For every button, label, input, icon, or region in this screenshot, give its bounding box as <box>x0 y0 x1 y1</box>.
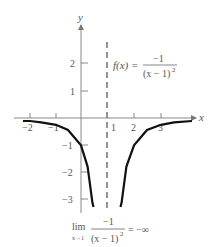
svg-text:−1: −1 <box>153 53 164 64</box>
function-graph: x y −2 −1 1 2 3 2 1 −1 −2 −3 f(x) = −1 (… <box>0 0 211 247</box>
svg-text:2: 2 <box>120 230 124 238</box>
svg-text:f(x) =: f(x) = <box>113 59 138 72</box>
y-tick-label: 2 <box>70 58 75 69</box>
x-tick-label: −2 <box>22 122 33 133</box>
function-label: f(x) = −1 (x − 1) 2 <box>113 53 177 80</box>
svg-text:lim: lim <box>72 221 86 232</box>
y-tick-label: −3 <box>62 194 73 205</box>
svg-text:(x − 1): (x − 1) <box>91 233 118 245</box>
svg-text:= −∞: = −∞ <box>128 224 149 235</box>
svg-text:(x − 1): (x − 1) <box>143 68 170 80</box>
y-tick-label: −2 <box>62 167 73 178</box>
x-tick-label: 1 <box>111 122 116 133</box>
x-axis-label: x <box>198 111 204 123</box>
y-tick-label: 1 <box>70 86 75 97</box>
y-axis-label: y <box>77 11 83 23</box>
curve-right-branch <box>121 121 193 207</box>
x-ticks <box>30 113 161 118</box>
svg-text:2: 2 <box>172 66 176 74</box>
curve-left-branch <box>23 121 94 207</box>
y-ticks <box>81 63 88 199</box>
svg-text:−1: −1 <box>103 216 114 227</box>
y-tick-label: −1 <box>62 140 73 151</box>
x-tick-label: 2 <box>131 122 136 133</box>
limit-annotation: lim x→1 −1 (x − 1) 2 = −∞ <box>72 216 149 245</box>
svg-text:x→1: x→1 <box>72 235 84 241</box>
